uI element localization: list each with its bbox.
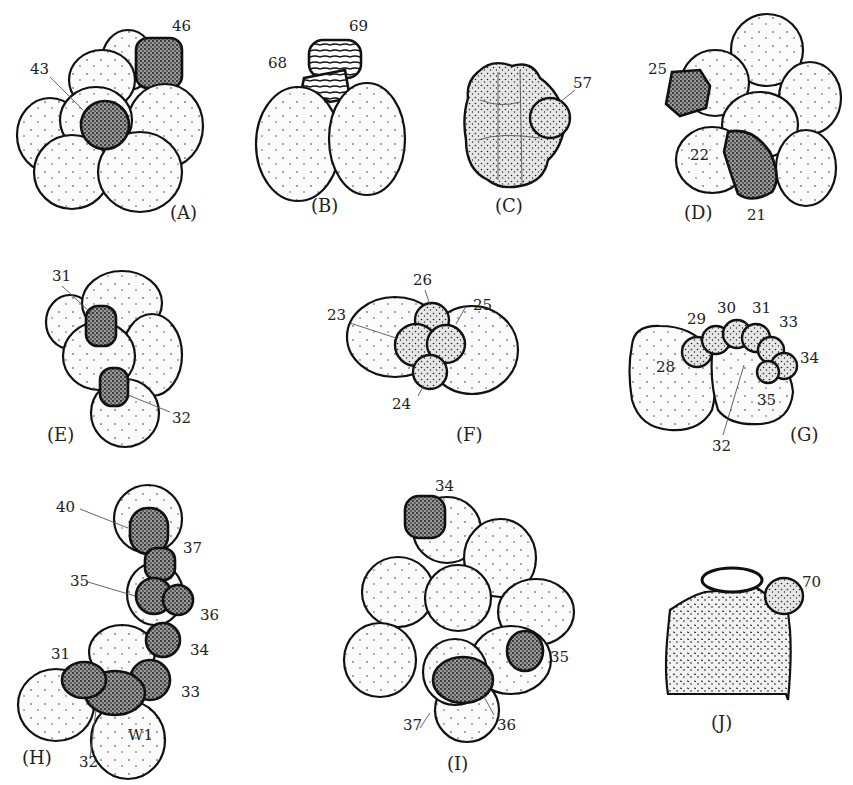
annotation-26: 26	[413, 271, 432, 289]
chamber-46	[136, 38, 182, 88]
panel-f: 26 23 25 24 (F)	[327, 271, 518, 445]
chamber-37	[145, 548, 175, 580]
annotation-35: 35	[550, 648, 569, 666]
panel-h: 40 37 35 36 34 31 33 W1 32 (H)	[18, 485, 219, 779]
annotation-40: 40	[56, 498, 75, 516]
annotation-32: 32	[712, 437, 731, 455]
annotation-37: 37	[183, 539, 202, 557]
panel-label-c: (C)	[495, 195, 523, 216]
annotation-33: 33	[779, 313, 798, 331]
chamber-57	[530, 98, 570, 138]
chamber-36	[163, 585, 193, 615]
annotation-31: 31	[51, 645, 70, 663]
chamber-35	[507, 631, 543, 671]
panel-label-d: (D)	[684, 202, 712, 223]
panel-label-e: (E)	[47, 424, 74, 445]
annotation-w1: W1	[128, 726, 153, 744]
annotation-35: 35	[70, 572, 89, 590]
annotation-31: 31	[752, 299, 771, 317]
annotation-35: 35	[757, 391, 776, 409]
annotation-69: 69	[349, 17, 368, 35]
panel-label-g: (G)	[790, 424, 818, 445]
annotation-22: 22	[690, 146, 709, 164]
annotation-25: 25	[473, 296, 492, 314]
annotation-43: 43	[30, 60, 49, 78]
panel-label-i: (I)	[447, 753, 468, 774]
chamber	[425, 565, 491, 631]
annotation-31: 31	[52, 267, 71, 285]
annotation-34: 34	[800, 349, 819, 367]
chamber-24	[413, 355, 447, 389]
panel-i: 34 35 37 36 (I)	[344, 477, 574, 774]
chamber	[329, 83, 405, 195]
panel-label-a: (A)	[170, 202, 197, 223]
annotation-46: 46	[172, 17, 191, 35]
chamber	[256, 87, 340, 201]
chamber-34b	[757, 361, 779, 383]
aperture-icon	[702, 568, 762, 592]
annotation-32: 32	[172, 409, 191, 427]
annotation-30: 30	[717, 299, 736, 317]
annotation-32: 32	[79, 753, 98, 771]
panel-g: 29 30 31 33 28 34 35 32 (G)	[630, 299, 820, 455]
annotation-25: 25	[648, 60, 667, 78]
panel-c: 57 (C)	[464, 63, 592, 216]
chamber-43	[81, 101, 129, 149]
annotation-21: 21	[747, 206, 766, 224]
annotation-28: 28	[656, 358, 675, 376]
chamber	[776, 130, 836, 206]
chamber-32	[100, 368, 128, 406]
annotation-68: 68	[268, 54, 287, 72]
annotation-70: 70	[802, 573, 821, 591]
annotation-34: 34	[190, 641, 209, 659]
annotation-34: 34	[435, 477, 454, 495]
annotation-36: 36	[497, 716, 516, 734]
panel-d: 25 22 21 (D)	[648, 14, 841, 224]
panel-label-j: (J)	[711, 712, 732, 733]
annotation-24: 24	[392, 395, 411, 413]
chamber-31	[62, 662, 106, 698]
figure-canvas: 46 43 (A) 69 68 (B) 57 (C) 25 22 21 (D)	[0, 0, 853, 785]
chamber-34	[146, 623, 180, 657]
annotation-33: 33	[181, 683, 200, 701]
annotation-57: 57	[573, 74, 592, 92]
panel-label-b: (B)	[311, 195, 338, 216]
chamber	[362, 557, 434, 627]
panel-label-f: (F)	[456, 424, 483, 445]
annotation-29: 29	[687, 310, 706, 328]
panel-j: 70 (J)	[666, 568, 821, 733]
chamber	[344, 623, 416, 697]
panel-e: 31 32 (E)	[46, 267, 191, 447]
chamber-25	[666, 70, 710, 116]
panel-b: 69 68 (B)	[256, 17, 405, 216]
chamber-34	[405, 496, 445, 538]
panel-a: 46 43 (A)	[17, 17, 203, 223]
panel-label-h: (H)	[22, 747, 52, 768]
annotation-36: 36	[200, 606, 219, 624]
chamber-70	[765, 578, 803, 614]
annotation-23: 23	[327, 306, 346, 324]
annotation-37: 37	[403, 716, 422, 734]
